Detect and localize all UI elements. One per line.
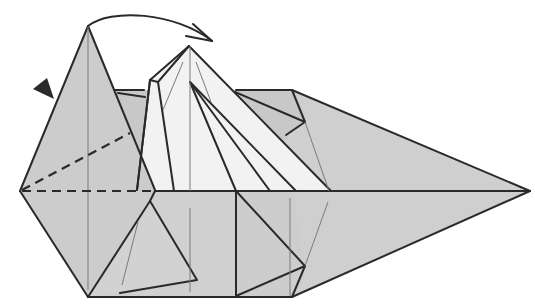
fold-diagram-canvas bbox=[0, 0, 535, 304]
fold-over-arrow-icon bbox=[88, 15, 212, 41]
push-marker-icon bbox=[33, 78, 54, 99]
